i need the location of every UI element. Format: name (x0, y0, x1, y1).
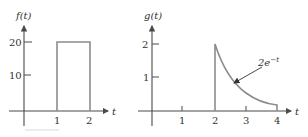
figure: f(t) t 20 10 1 2 g(t) t 2 1 1 2 3 4 2e−t (0, 0, 308, 137)
x-tick-label: 2 (212, 115, 218, 126)
x-axis-label: t (112, 106, 117, 117)
x-tick-label: 1 (54, 115, 60, 126)
x-tick-label: 2 (86, 115, 92, 126)
x-tick-label: 3 (243, 115, 249, 126)
annotation-label: 2e−t (257, 56, 279, 68)
y-axis-label: f(t) (15, 10, 32, 21)
chart-g: g(t) t 2 1 1 2 3 4 2e−t (138, 10, 300, 126)
y-axis-label: g(t) (144, 10, 162, 21)
decay-curve (215, 44, 277, 111)
x-tick-label: 4 (274, 115, 280, 126)
chart-f: f(t) t 20 10 1 2 (9, 10, 117, 126)
faint-caption (25, 129, 59, 131)
pulse-curve (57, 42, 90, 111)
y-tick-label: 20 (9, 37, 22, 48)
x-tick-label: 1 (179, 115, 185, 126)
annotation-arrow (234, 67, 262, 83)
y-tick-label: 10 (9, 70, 22, 81)
y-tick-label: 1 (143, 72, 149, 83)
x-axis-label: t (295, 106, 300, 117)
y-tick-label: 2 (142, 39, 148, 50)
